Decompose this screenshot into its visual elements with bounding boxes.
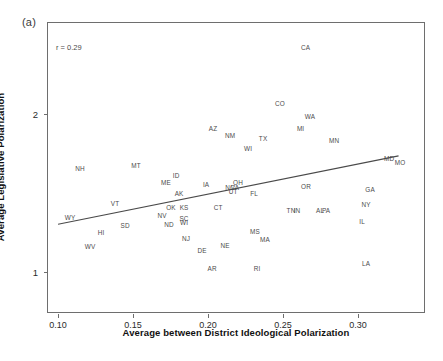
scatter-point-ak: AK	[175, 191, 184, 197]
scatter-point-wi: WI	[244, 146, 252, 152]
y-tick-label: 2	[33, 108, 38, 119]
scatter-point-pa: PA	[322, 208, 330, 214]
scatter-point-ne: NE	[220, 242, 229, 248]
scatter-point-ok: OK	[166, 205, 176, 211]
scatter-point-or: OR	[301, 184, 311, 190]
scatter-point-hi: HI	[98, 230, 105, 236]
scatter-point-il: IL	[359, 219, 365, 225]
y-axis-title: Average Legislative Polarization	[0, 93, 6, 242]
scatter-point-vt: VT	[111, 200, 119, 206]
scatter-point-nj: NJ	[182, 235, 190, 241]
x-tick-mark	[208, 314, 209, 318]
scatter-point-fl: FL	[250, 191, 258, 197]
x-tick-mark	[283, 314, 284, 318]
scatter-point-wi: WI	[180, 220, 188, 226]
scatter-point-ks: KS	[180, 205, 189, 211]
scatter-point-mn: MN	[329, 137, 339, 143]
scatter-point-ct: CT	[214, 205, 223, 211]
scatter-point-md: MD	[384, 156, 394, 162]
y-tick-label: 1	[33, 267, 38, 278]
scatter-point-tx: TX	[259, 136, 267, 142]
scatter-point-wv: WV	[85, 244, 96, 250]
scatter-point-ut: UT	[229, 189, 238, 195]
x-tick-mark	[133, 314, 134, 318]
x-tick-mark	[358, 314, 359, 318]
plot-inner: r = 0.29 CACOWAAZMINMTXMNWIMDMONHMTIDMEO…	[48, 23, 424, 312]
scatter-point-sd: SD	[121, 223, 130, 229]
scatter-point-de: DE	[197, 248, 206, 254]
scatter-point-mt: MT	[131, 163, 141, 169]
scatter-point-mi: MI	[297, 126, 304, 132]
scatter-point-ms: MS	[250, 228, 260, 234]
scatter-point-nm: NM	[225, 133, 235, 139]
scatter-point-mo: MO	[395, 160, 406, 166]
scatter-point-co: CO	[275, 101, 285, 107]
scatter-point-me: ME	[161, 179, 171, 185]
scatter-point-ma: MA	[260, 237, 270, 243]
scatter-point-nv: NV	[157, 213, 166, 219]
y-tick-mark	[44, 272, 48, 273]
plot-area: r = 0.29 CACOWAAZMINMTXMNWIMDMONHMTIDMEO…	[47, 22, 425, 313]
scatter-point-id: ID	[173, 172, 180, 178]
y-tick-mark	[44, 114, 48, 115]
scatter-point-ar: AR	[208, 266, 217, 272]
scatter-point-az: AZ	[209, 126, 217, 132]
figure-panel: (a) r = 0.29 CACOWAAZMINMTXMNWIMDMONHMTI…	[0, 0, 443, 361]
x-axis-title: Average between District Ideological Pol…	[47, 327, 425, 338]
scatter-point-ri: RI	[254, 266, 261, 272]
scatter-point-wy: WY	[65, 214, 76, 220]
x-tick-mark	[58, 314, 59, 318]
scatter-point-ga: GA	[365, 186, 375, 192]
scatter-point-ia: IA	[203, 182, 209, 188]
scatter-point-ca: CA	[301, 45, 310, 51]
scatter-point-nh: NH	[75, 165, 85, 171]
panel-label: (a)	[22, 16, 36, 28]
scatter-point-in: IN	[294, 208, 301, 214]
scatter-point-nd: ND	[164, 221, 174, 227]
scatter-point-la: LA	[362, 261, 370, 267]
trend-line-svg	[48, 23, 426, 314]
scatter-point-wa: WA	[305, 114, 315, 120]
scatter-point-ny: NY	[361, 202, 370, 208]
